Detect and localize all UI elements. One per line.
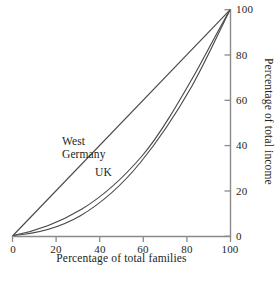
line-of-equality <box>13 10 230 235</box>
lorenz-curve-figure: 0 20 40 60 80 100 0 20 40 60 80 100 West… <box>0 0 277 285</box>
x-axis-title: Percentage of total families <box>0 252 243 264</box>
west-germany-label: West Germany <box>62 135 106 161</box>
y-tick-label-100: 100 <box>236 4 262 15</box>
y-tick-label-80: 80 <box>236 50 262 61</box>
y-tick-label-20: 20 <box>236 186 262 197</box>
west-germany-label-line1: West <box>62 135 106 148</box>
y-tick-label-60: 60 <box>236 95 262 106</box>
west-germany-label-line2: Germany <box>62 148 106 161</box>
y-axis-ticks <box>225 10 231 237</box>
x-axis-ticks <box>13 237 231 243</box>
uk-label: UK <box>95 166 112 179</box>
y-axis-title: Percentage of total income <box>260 0 277 243</box>
y-tick-label-0: 0 <box>236 231 262 242</box>
y-tick-label-40: 40 <box>236 140 262 151</box>
